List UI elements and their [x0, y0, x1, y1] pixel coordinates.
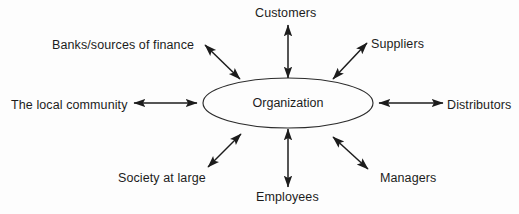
connector-managers: [333, 137, 368, 169]
stakeholder-diagram: Organization Customers Suppliers Distrib…: [0, 0, 519, 214]
node-label-employees: Employees: [256, 190, 319, 204]
connector-society: [208, 134, 241, 167]
connector-banks: [205, 45, 240, 79]
connector-suppliers: [333, 43, 367, 79]
node-label-suppliers: Suppliers: [371, 37, 424, 51]
node-label-distributors: Distributors: [447, 98, 511, 112]
node-label-society-at-large: Society at large: [118, 171, 206, 185]
organization-label: Organization: [203, 95, 373, 111]
node-label-customers: Customers: [255, 6, 316, 20]
node-label-banks-sources-of-finance: Banks/sources of finance: [52, 38, 194, 52]
node-label-local-community: The local community: [11, 98, 128, 112]
node-label-managers: Managers: [380, 171, 436, 185]
